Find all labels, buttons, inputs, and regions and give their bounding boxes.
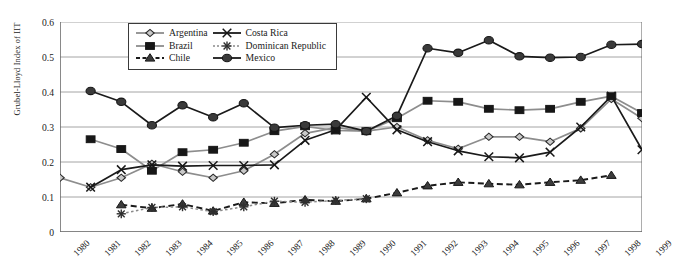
- marker-triangle-icon: [145, 54, 155, 61]
- legend-label: Dominican Republic: [246, 40, 330, 53]
- x-axis-tick: 1981: [102, 238, 122, 258]
- y-axis-tick: 0.6: [20, 17, 54, 28]
- x-axis-tick: 1995: [531, 238, 551, 258]
- legend-symbol: [135, 40, 165, 52]
- x-axis-tick: 1999: [653, 238, 673, 258]
- marker-square-icon: [117, 146, 126, 153]
- marker-circle-icon: [392, 112, 401, 119]
- y-axis-tick: 0.3: [20, 122, 54, 133]
- marker-circle-icon: [117, 98, 126, 105]
- x-axis-tick-labels: 1980198119821983198419851986198719881989…: [60, 238, 650, 276]
- legend-symbol-cell: [135, 52, 169, 65]
- marker-circle-icon: [331, 121, 340, 128]
- marker-diamond-icon: [485, 133, 493, 140]
- marker-square-icon: [484, 105, 493, 112]
- marker-circle-icon: [209, 114, 218, 121]
- marker-circle-icon: [147, 122, 156, 129]
- chart-legend: ArgentinaCosta RicaBrazilDominican Repub…: [128, 23, 337, 70]
- legend-row: ChileMexico: [135, 52, 330, 65]
- legend-symbol-cell: [135, 27, 169, 40]
- x-axis-tick: 1987: [286, 238, 306, 258]
- marker-circle-icon: [222, 55, 231, 62]
- x-axis-tick: 1985: [225, 238, 245, 258]
- marker-circle-icon: [515, 53, 524, 60]
- marker-square-icon: [423, 97, 432, 104]
- legend-row: ArgentinaCosta Rica: [135, 27, 330, 40]
- marker-circle-icon: [454, 49, 463, 56]
- x-axis-tick: 1980: [71, 238, 91, 258]
- marker-diamond-icon: [146, 30, 154, 37]
- x-axis-tick: 1993: [470, 238, 490, 258]
- x-axis-tick: 1989: [347, 238, 367, 258]
- marker-square-icon: [209, 146, 218, 153]
- marker-circle-icon: [178, 102, 187, 109]
- legend-row: BrazilDominican Republic: [135, 40, 330, 53]
- x-axis-tick: 1992: [439, 238, 459, 258]
- y-axis-tick: 0: [20, 227, 54, 238]
- marker-triangle-icon: [607, 171, 617, 178]
- x-axis-tick: 1994: [500, 238, 520, 258]
- marker-square-icon: [146, 42, 155, 49]
- marker-square-icon: [515, 107, 524, 114]
- marker-diamond-icon: [209, 174, 217, 181]
- x-axis-tick: 1997: [592, 238, 612, 258]
- y-axis-tick: 0.5: [20, 52, 54, 63]
- legend-symbol: [212, 52, 242, 64]
- legend-symbol: [212, 27, 242, 39]
- x-axis-tick: 1988: [316, 238, 336, 258]
- legend-symbol: [135, 27, 165, 39]
- x-axis-tick: 1990: [378, 238, 398, 258]
- marker-diamond-icon: [546, 138, 554, 145]
- marker-circle-icon: [423, 45, 432, 52]
- legend-label: Costa Rica: [246, 27, 330, 40]
- marker-triangle-icon: [392, 189, 402, 196]
- series-line: [91, 96, 642, 187]
- legend-symbol-cell: [135, 40, 169, 53]
- x-axis-tick: 1984: [194, 238, 214, 258]
- x-axis-tick: 1983: [163, 238, 183, 258]
- legend-symbol-cell: [212, 52, 246, 65]
- legend-label: Chile: [169, 52, 212, 65]
- marker-circle-icon: [300, 122, 309, 129]
- legend-label: Brazil: [169, 40, 212, 53]
- legend-symbol-cell: [212, 27, 246, 40]
- x-axis-tick: 1986: [255, 238, 275, 258]
- marker-circle-icon: [484, 37, 493, 44]
- marker-diamond-icon: [60, 174, 64, 181]
- x-axis-tick: 1998: [623, 238, 643, 258]
- marker-triangle-icon: [116, 200, 126, 207]
- marker-diamond-icon: [515, 133, 523, 140]
- y-axis-tick: 0.2: [20, 157, 54, 168]
- y-axis-tick: 0.1: [20, 192, 54, 203]
- y-axis-tick-labels: 00.10.20.30.40.50.6: [18, 0, 54, 276]
- marker-square-icon: [454, 98, 463, 105]
- marker-square-icon: [576, 98, 585, 105]
- legend-symbol: [135, 52, 165, 64]
- marker-circle-icon: [576, 53, 585, 60]
- marker-square-icon: [86, 136, 95, 143]
- legend-label: Argentina: [169, 27, 212, 40]
- y-axis-tick: 0.4: [20, 87, 54, 98]
- legend-symbol-cell: [212, 40, 246, 53]
- series-line: [121, 175, 611, 211]
- marker-circle-icon: [546, 54, 555, 61]
- legend-table: ArgentinaCosta RicaBrazilDominican Repub…: [135, 27, 330, 65]
- marker-square-icon: [638, 110, 642, 117]
- x-axis-tick: 1991: [408, 238, 428, 258]
- marker-circle-icon: [86, 87, 95, 94]
- marker-square-icon: [178, 149, 187, 156]
- x-axis-tick: 1996: [562, 238, 582, 258]
- marker-diamond-icon: [117, 174, 125, 181]
- x-axis-tick: 1982: [133, 238, 153, 258]
- legend-label: Mexico: [246, 52, 330, 65]
- marker-square-icon: [239, 139, 248, 146]
- marker-circle-icon: [239, 100, 248, 107]
- marker-circle-icon: [270, 124, 279, 131]
- marker-circle-icon: [362, 128, 371, 135]
- legend-symbol: [212, 40, 242, 52]
- marker-square-icon: [546, 105, 555, 112]
- marker-circle-icon: [607, 41, 616, 48]
- marker-circle-icon: [637, 40, 642, 47]
